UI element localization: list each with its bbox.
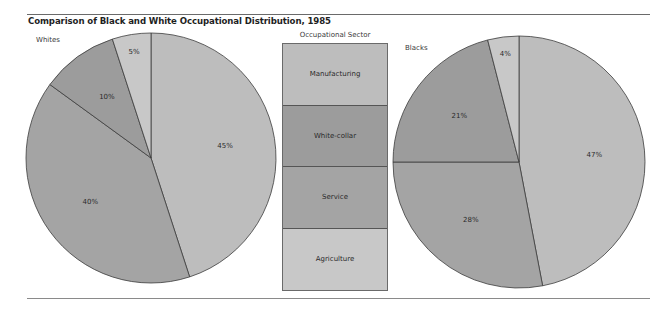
slice-label-manufacturing: 47%	[586, 151, 602, 159]
pie-label-whites: Whites	[36, 36, 60, 44]
slice-label-agriculture: 4%	[500, 50, 511, 58]
slice-label-service: 28%	[463, 216, 479, 224]
legend-item-manufacturing: Manufacturing	[283, 44, 387, 106]
pie-slice-service	[393, 162, 543, 288]
legend-item-agriculture: Agriculture	[283, 229, 387, 291]
slice-label-service: 40%	[83, 198, 99, 206]
slice-label-white-collar: 10%	[99, 93, 115, 101]
pie-label-blacks: Blacks	[405, 44, 428, 52]
legend-item-service: Service	[283, 167, 387, 229]
slice-label-agriculture: 5%	[129, 48, 140, 56]
slice-label-white-collar: 21%	[451, 112, 467, 120]
bottom-rule	[27, 298, 650, 299]
legend: Manufacturing White-collar Service Agric…	[282, 43, 388, 291]
pie-blacks	[393, 36, 645, 288]
legend-item-white-collar: White-collar	[283, 106, 387, 168]
legend-title: Occupational Sector	[282, 31, 388, 39]
pie-whites	[26, 33, 276, 283]
pie-slice-manufacturing	[519, 36, 645, 286]
slice-label-manufacturing: 45%	[217, 142, 233, 150]
